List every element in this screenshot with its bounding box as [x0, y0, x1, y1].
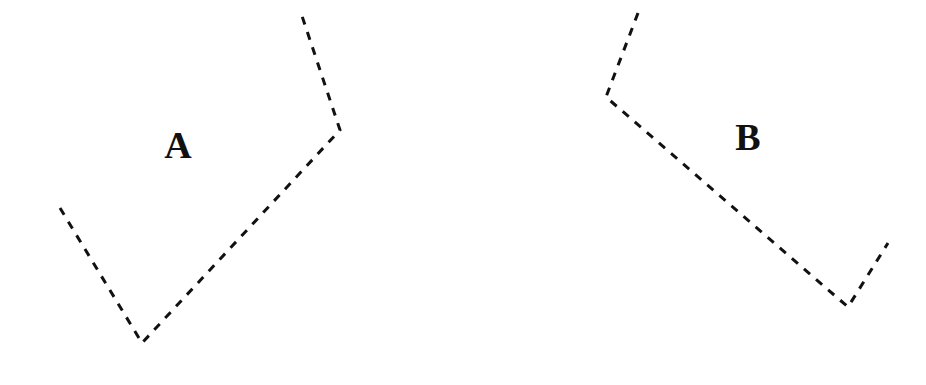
region-label-a: A [164, 126, 191, 164]
polyline-group [60, 13, 888, 343]
dashed-polyline-figure [0, 0, 926, 385]
region-boundary-a [60, 13, 340, 343]
region-boundary-b [606, 13, 888, 307]
region-label-b: B [735, 118, 760, 156]
figure-canvas: AB [0, 0, 926, 385]
